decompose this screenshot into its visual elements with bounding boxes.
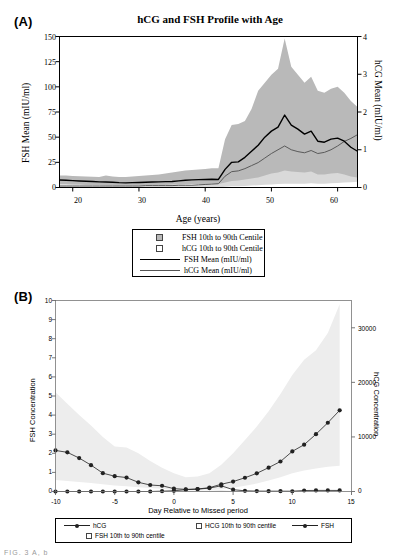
panel-a-x-label: Age (years) (0, 214, 396, 224)
panel-b-y2tick-10000: 10000 (358, 433, 392, 440)
panel-b-xtick--5: -5 (104, 498, 126, 505)
panel-b-ytick-1: 1 (34, 468, 52, 475)
legend-label-fsh-centile: FSH 10th to 90th Centile (182, 233, 262, 242)
panel-b-xtick-0: 0 (163, 498, 185, 505)
panel-a-ytick-125: 125 (32, 58, 56, 67)
figure-root: (A) hCG and FSH Profile with Age FSH Mea… (0, 0, 396, 559)
panel-a-xtick-50: 50 (258, 196, 282, 205)
panel-b-ytick-8: 8 (34, 335, 52, 342)
legend-label-fsh-mean: FSH Mean (mIU/ml) (184, 255, 252, 264)
panel-b-xtick-10: 10 (281, 498, 303, 505)
panel-a-y2tick-1: 1 (363, 145, 383, 154)
panel-a-ytick-150: 150 (32, 33, 56, 42)
panel-b-y2tick-20000: 20000 (358, 379, 392, 386)
panel-b-ytick-4: 4 (34, 411, 52, 418)
legend-item-b-hcg-centile: HCG 10th to 90th centile (196, 522, 276, 529)
fsh-centile-box-icon (86, 533, 92, 539)
panel-a-ytick-75: 75 (32, 108, 56, 117)
panel-a: (A) hCG and FSH Profile with Age FSH Mea… (0, 0, 396, 282)
panel-a-xtick-40: 40 (194, 196, 218, 205)
fsh-line-marker-icon (292, 522, 318, 529)
legend-item-hcg-mean: hCG Mean (mIU/ml) (136, 265, 261, 276)
panel-a-ytick-0: 0 (32, 183, 56, 192)
panel-a-xtick-30: 30 (130, 196, 154, 205)
fsh-centile-swatch-icon (136, 234, 182, 241)
panel-a-y-left-label: FSH Mean (mIU/ml) (21, 83, 31, 163)
panel-b-y2tick-0: 0 (358, 487, 392, 494)
hcg-centile-swatch-icon (136, 245, 182, 252)
legend-item-fsh-centile: FSH 10th to 90th Centile (136, 232, 261, 243)
hcg-centile-box-icon (196, 523, 202, 529)
panel-b: (B) FSH Concentration hCG Concentration … (0, 282, 396, 559)
hcg-mean-line-icon (136, 270, 184, 271)
panel-a-y2tick-3: 3 (363, 70, 383, 79)
figure-caption-partial: FIG. 3 A, b (4, 549, 124, 557)
panel-b-xtick--10: -10 (45, 498, 67, 505)
panel-a-y2tick-2: 2 (363, 108, 383, 117)
panel-b-ytick-0: 0 (34, 487, 52, 494)
panel-b-ytick-6: 6 (34, 373, 52, 380)
panel-b-xtick-15: 15 (340, 498, 362, 505)
panel-b-ytick-7: 7 (34, 354, 52, 361)
panel-b-ytick-2: 2 (34, 449, 52, 456)
panel-a-ytick-100: 100 (32, 83, 56, 92)
legend-item-b-fsh: FSH (292, 522, 334, 529)
panel-b-legend: hCG HCG 10th to 90th centile FSH FSH 10t… (55, 518, 352, 543)
panel-b-ytick-3: 3 (34, 430, 52, 437)
legend-label-b-fsh-centile: FSH 10th to 90th centile (95, 532, 165, 539)
legend-item-b-fsh-centile: FSH 10th to 90th centile (86, 532, 165, 539)
panel-a-legend: FSH 10th to 90th Centile hCG 10th to 90t… (132, 229, 265, 277)
hcg-line-marker-icon (64, 522, 90, 529)
panel-b-ytick-10: 10 (34, 297, 52, 304)
panel-a-xtick-60: 60 (322, 196, 346, 205)
panel-a-ytick-50: 50 (32, 133, 56, 142)
legend-item-hcg-centile: hCG 10th to 90th Centile (136, 243, 261, 254)
legend-label-b-hcg: hCG (93, 522, 106, 529)
panel-a-ytick-25: 25 (32, 158, 56, 167)
panel-b-x-label: Day Relative to Missed period (0, 506, 396, 515)
legend-label-hcg-mean: hCG Mean (mIU/ml) (184, 266, 252, 275)
panel-a-y2tick-0: 0 (363, 183, 383, 192)
legend-label-hcg-centile: hCG 10th to 90th Centile (182, 244, 263, 253)
panel-a-xtick-20: 20 (66, 196, 90, 205)
fsh-mean-line-icon (136, 259, 184, 260)
panel-a-y2tick-4: 4 (363, 33, 383, 42)
panel-a-title: hCG and FSH Profile with Age (60, 13, 360, 25)
legend-item-fsh-mean: FSH Mean (mIU/ml) (136, 254, 261, 265)
legend-item-b-hcg: hCG (64, 522, 106, 529)
panel-b-xtick-5: 5 (222, 498, 244, 505)
legend-label-b-hcg-centile: HCG 10th to 90th centile (205, 522, 276, 529)
legend-label-b-fsh: FSH (321, 522, 334, 529)
panel-b-ytick-5: 5 (34, 392, 52, 399)
panel-b-ytick-9: 9 (34, 316, 52, 323)
panel-a-letter: (A) (14, 14, 33, 29)
panel-b-y2tick-30000: 30000 (358, 325, 392, 332)
panel-b-letter: (B) (14, 289, 33, 304)
